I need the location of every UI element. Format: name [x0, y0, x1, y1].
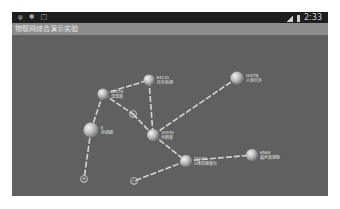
notification-box-icon: □: [41, 12, 48, 23]
node-name: 协调器: [101, 129, 113, 135]
sensor-node-54131[interactable]: 54131红外检测: [144, 75, 173, 86]
node-sphere[interactable]: [180, 155, 192, 167]
small-node-label: □: [131, 112, 135, 117]
node-sphere[interactable]: [246, 149, 258, 161]
sensor-node-10476[interactable]: 10476温湿度: [98, 89, 124, 100]
usb-icon: ψ: [18, 12, 23, 23]
sensor-node-21023[interactable]: 210233维加速度仪: [180, 155, 217, 167]
phone-screen: ψ ✺ □ 2:33 物联网综合演示实验 □□□10476温湿度54131红外检…: [12, 12, 328, 196]
link-n10354-n10478: [153, 78, 237, 135]
battery-icon: [297, 15, 300, 22]
node-sphere[interactable]: [84, 123, 99, 138]
link-n21023-s3: [134, 161, 186, 181]
node-name: 3维加速度仪: [194, 160, 217, 166]
small-node-label: □: [132, 179, 136, 184]
status-bar: ψ ✺ □ 2:33: [12, 12, 328, 23]
sensor-node-6568[interactable]: 6568超声波测距: [246, 149, 280, 161]
sensor-node-10478[interactable]: 10478人体红外: [231, 72, 262, 85]
node-sphere[interactable]: [231, 72, 244, 85]
sensor-node-0[interactable]: 0协调器: [84, 123, 113, 138]
node-sphere[interactable]: [98, 89, 109, 100]
node-sphere[interactable]: [147, 129, 159, 141]
topology-graph[interactable]: □□□10476温湿度54131红外检测10478人体红外0协调器10354光照…: [12, 35, 328, 196]
node-sphere[interactable]: [144, 75, 155, 86]
sensor-node-10354[interactable]: 10354光照度: [147, 129, 174, 141]
topology-canvas[interactable]: □□□10476温湿度54131红外检测10478人体红外0协调器10354光照…: [12, 35, 328, 196]
status-time: 2:33: [304, 12, 322, 23]
android-debug-icon: ✺: [29, 12, 35, 23]
node-name: 人体红外: [246, 77, 262, 83]
link-n54131-n10354: [149, 80, 153, 135]
small-node-label: □: [82, 177, 86, 182]
node-name: 红外检测: [157, 79, 173, 85]
node-name: 光照度: [161, 134, 173, 140]
app-title-bar: 物联网综合演示实验: [12, 23, 328, 35]
node-name: 超声波测距: [260, 154, 280, 160]
node-name: 温湿度: [111, 93, 123, 99]
signal-icon: [286, 16, 293, 22]
app-title: 物联网综合演示实验: [15, 25, 78, 33]
